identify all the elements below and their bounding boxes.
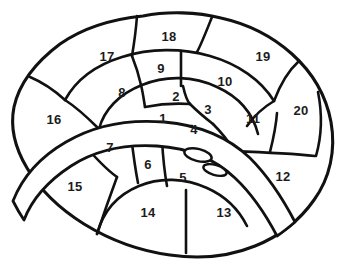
region-label-10: 10 [218,75,233,88]
region-label-1: 1 [159,112,166,125]
region-label-14: 14 [141,206,156,219]
region-label-17: 17 [100,50,115,63]
region-label-5: 5 [179,171,186,184]
region-label-18: 18 [162,30,177,43]
region-label-8: 8 [118,86,125,99]
region-label-9: 9 [157,62,164,75]
region-label-2: 2 [172,90,179,103]
region-label-6: 6 [144,158,151,171]
region-label-15: 15 [68,180,83,193]
region-label-4: 4 [190,123,197,136]
plate-diagram-figure: 1 2 3 4 5 6 7 8 9 10 11 12 13 14 15 16 1… [0,0,348,273]
region-label-19: 19 [256,50,271,63]
region-label-7: 7 [106,141,113,154]
region-label-13: 13 [217,206,232,219]
region-label-16: 16 [47,113,62,126]
region-label-11: 11 [246,112,260,125]
region-label-20: 20 [294,104,309,117]
region-label-12: 12 [276,170,291,183]
region-label-3: 3 [204,103,211,116]
